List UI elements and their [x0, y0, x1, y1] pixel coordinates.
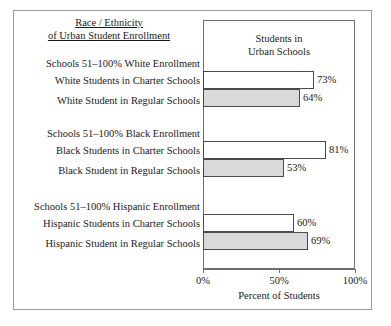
chart-title: Race / Ethnicity of Urban Student Enroll…	[16, 16, 202, 42]
x-axis-title: Percent of Students	[203, 289, 355, 302]
bar-value-label: 81%	[329, 142, 348, 158]
chart-title-line-2: of Urban Student Enrollment	[16, 29, 202, 42]
bar-row: 73%	[203, 71, 355, 89]
bar-row: 81%	[203, 141, 355, 159]
plot-header: Students in Urban Schools	[203, 32, 355, 58]
label-group: Schools 51–100% Black EnrollmentBlack St…	[16, 127, 202, 185]
group-header: Schools 51–100% Hispanic Enrollment	[16, 200, 202, 217]
x-axis-tick-label: 100%	[343, 274, 368, 287]
bar[interactable]	[203, 159, 284, 177]
plot-header-line-2: Urban Schools	[203, 45, 355, 58]
bar-row: 64%	[203, 89, 355, 107]
bar-row: 53%	[203, 159, 355, 177]
x-axis-tick-label: 0%	[196, 274, 210, 287]
x-axis-tick-label: 50%	[269, 274, 288, 287]
x-axis: 0%50%100% Percent of Students	[203, 269, 355, 309]
plot-header-line-1: Students in	[203, 32, 355, 45]
group-header: Schools 51–100% Black Enrollment	[16, 127, 202, 144]
plot-area: Students in Urban Schools 73%64%81%53%60…	[203, 20, 355, 269]
bar-value-label: 73%	[317, 72, 336, 88]
group-header: Schools 51–100% White Enrollment	[16, 57, 202, 74]
bar[interactable]	[203, 141, 326, 159]
bar-label: Hispanic Student in Regular Schools	[16, 237, 202, 258]
label-group: Schools 51–100% White EnrollmentWhite St…	[16, 57, 202, 115]
x-axis-tick	[203, 269, 204, 273]
bar-value-label: 60%	[297, 215, 316, 231]
chart-title-line-1: Race / Ethnicity	[16, 16, 202, 29]
bar-value-label: 69%	[311, 233, 330, 249]
bar-value-label: 53%	[287, 160, 306, 176]
bar-label: Hispanic Students in Charter Schools	[16, 217, 202, 237]
chart-figure: Race / Ethnicity of Urban Student Enroll…	[0, 0, 391, 326]
bar-value-label: 64%	[303, 90, 322, 106]
bar[interactable]	[203, 214, 294, 232]
x-axis-tick	[355, 269, 356, 273]
bar-row: 69%	[203, 232, 355, 250]
bar[interactable]	[203, 232, 308, 250]
x-axis-tick	[279, 269, 280, 273]
bar-row: 60%	[203, 214, 355, 232]
bar-label: Black Students in Charter Schools	[16, 144, 202, 164]
bar-label: Black Student in Regular Schools	[16, 164, 202, 185]
bar[interactable]	[203, 71, 314, 89]
bar[interactable]	[203, 89, 300, 107]
label-group: Schools 51–100% Hispanic EnrollmentHispa…	[16, 200, 202, 258]
bar-label: White Students in Charter Schools	[16, 74, 202, 94]
label-column: Race / Ethnicity of Urban Student Enroll…	[16, 14, 202, 306]
bar-label: White Student in Regular Schools	[16, 94, 202, 115]
